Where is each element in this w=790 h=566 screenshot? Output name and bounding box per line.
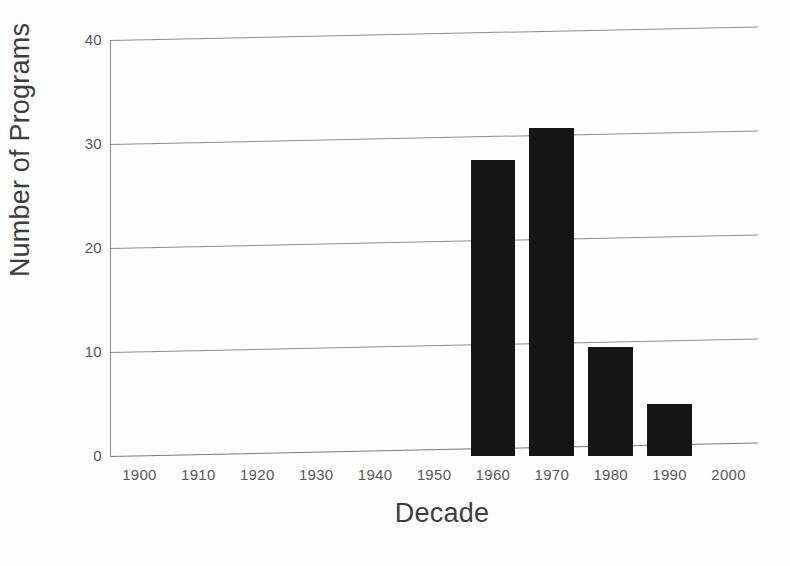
- y-axis-tick-labels: 010203040: [58, 40, 102, 456]
- bar-1970: [529, 128, 574, 456]
- bar-chart-figure: Number of Programs 010203040 19001910192…: [0, 0, 790, 566]
- gridline-30: [110, 130, 758, 145]
- bar-1990: [647, 404, 692, 456]
- y-tick-label: 0: [62, 447, 102, 464]
- y-tick-label: 10: [62, 343, 102, 360]
- x-axis-tick-labels: 1900191019201930194019501960197019801990…: [110, 466, 758, 490]
- y-axis-title: Number of Programs: [0, 0, 40, 360]
- y-tick-label: 20: [62, 239, 102, 256]
- bar-1980: [588, 347, 633, 456]
- x-axis-title: Decade: [282, 498, 602, 529]
- plot-area: [110, 40, 758, 456]
- bar-1960: [471, 160, 516, 456]
- gridline-20: [110, 234, 758, 249]
- gridline-40: [110, 26, 758, 41]
- gridline-10: [110, 338, 758, 353]
- y-tick-label: 40: [62, 31, 102, 48]
- y-tick-label: 30: [62, 135, 102, 152]
- x-tick-label: 2000: [694, 466, 764, 483]
